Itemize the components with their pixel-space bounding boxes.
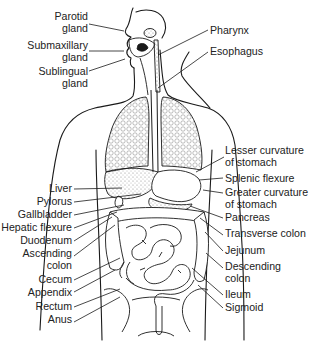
label-pylorus: Pylorus: [37, 196, 72, 208]
label-appendix: Appendix: [28, 287, 72, 299]
label-splenic-flexure: Splenic flexure: [225, 173, 295, 185]
intestines: [106, 208, 209, 335]
label-pharynx: Pharynx: [210, 25, 249, 37]
label-descending-colon: Descending colon: [225, 261, 281, 284]
leader-ileum: [192, 268, 223, 295]
label-sigmoid: Sigmoid: [225, 302, 263, 314]
leader-greater-curvature-of-stomach: [203, 190, 223, 193]
label-sublingual-gland: Sublingual gland: [39, 66, 88, 89]
leader-anus: [74, 297, 120, 322]
leader-rectum: [74, 289, 120, 307]
leader-sublingual-gland: [89, 59, 125, 71]
label-anus: Anus: [48, 314, 72, 326]
label-ileum: Ileum: [225, 289, 251, 301]
leader-esophagus: [158, 52, 208, 88]
label-rectum: Rectum: [36, 301, 73, 313]
leader-sigmoid: [198, 285, 223, 308]
label-parotid-gland: Parotid gland: [54, 11, 88, 34]
label-greater-curvature-of-stomach: Greater curvature of stomach: [225, 187, 308, 210]
lungs: [105, 97, 202, 172]
label-ascending-colon: Ascending colon: [23, 248, 72, 271]
leader-pharynx: [158, 30, 208, 55]
label-submaxillary-gland: Submaxillary gland: [27, 40, 88, 63]
label-cecum: Cecum: [38, 274, 72, 286]
label-liver: Liver: [49, 183, 72, 195]
label-transverse-colon: Transverse colon: [225, 228, 306, 240]
label-gallbladder: Gallbladder: [18, 209, 72, 221]
label-pancreas: Pancreas: [225, 212, 270, 224]
label-esophagus: Esophagus: [210, 46, 263, 58]
label-hepatic-flexure: Hepatic flexure: [1, 222, 72, 234]
label-lesser-curvature-of-stomach: Lesser curvature of stomach: [225, 145, 304, 168]
leader-descending-colon: [206, 253, 223, 268]
leader-parotid-gland: [89, 24, 124, 31]
label-duodenum: Duodenum: [20, 235, 72, 247]
label-jejunum: Jejunum: [225, 245, 265, 257]
digestive-system-diagram: Parotid glandSubmaxillary glandSublingua…: [0, 0, 309, 351]
